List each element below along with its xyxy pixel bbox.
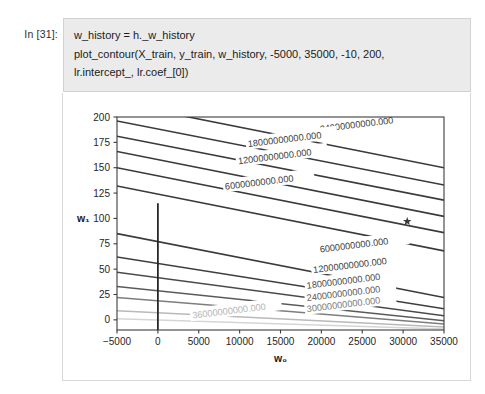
y-tick-label: 25 — [99, 289, 111, 300]
x-tick-label: 30000 — [389, 336, 417, 347]
y-axis-label: w₁ — [76, 212, 90, 224]
x-tick-label: 0 — [155, 336, 161, 347]
y-tick-label: 200 — [93, 112, 110, 123]
optimum-star-marker — [403, 217, 411, 225]
code-input-cell[interactable]: w_history = h._w_history plot_contour(X_… — [63, 18, 471, 92]
y-tick-label: 125 — [93, 188, 110, 199]
x-tick-label: 15000 — [267, 336, 295, 347]
x-tick-label: 10000 — [226, 336, 254, 347]
code-line-2: plot_contour(X_train, y_train, w_history… — [74, 45, 464, 64]
x-tick-label: 20000 — [307, 336, 335, 347]
contour-plot-figure: 24000000000.00018000000000.0001200000000… — [63, 93, 470, 380]
contour-lines-group: 24000000000.00018000000000.0001200000000… — [117, 103, 444, 330]
y-tick-label: 50 — [99, 264, 111, 275]
y-tick-label: 75 — [99, 238, 111, 249]
y-tick-label: 0 — [104, 314, 110, 325]
input-prompt-label: In [31]: — [8, 28, 58, 40]
contour-plot-svg: 24000000000.00018000000000.0001200000000… — [63, 93, 472, 381]
x-axis-label: w₀ — [273, 352, 287, 364]
y-tick-label: 175 — [93, 137, 110, 148]
contour-line — [117, 136, 444, 200]
y-tick-label: 100 — [93, 213, 110, 224]
code-line-3: lr.intercept_, lr.coef_[0]) — [74, 63, 464, 82]
code-line-1: w_history = h._w_history — [74, 26, 464, 45]
x-tick-label: 35000 — [430, 336, 458, 347]
cell-output-area: 24000000000.00018000000000.0001200000000… — [62, 93, 471, 381]
notebook-cell: In [31]: w_history = h._w_history plot_c… — [0, 0, 485, 394]
x-tick-label: −5000 — [103, 336, 132, 347]
x-tick-label: 25000 — [348, 336, 376, 347]
x-tick-label: 5000 — [188, 336, 211, 347]
y-tick-label: 150 — [93, 162, 110, 173]
